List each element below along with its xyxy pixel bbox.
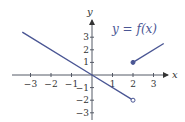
y-axis-label: y [86,6,93,17]
y-tick-label: −1 [76,83,89,93]
x-tick-label: −3 [24,79,38,89]
y-tick-label: 3 [83,32,89,42]
function-curves [22,32,163,102]
x-axis-label: x [172,69,178,80]
x-tick-label: 3 [151,79,157,89]
y-tick-label: −2 [76,95,89,105]
function-graph: x y −3−2−1123 −3−2−1123 y = f(x) [0,0,185,122]
y-tick-label: 2 [83,45,89,55]
y-tick-label: 1 [83,57,89,67]
y-tick-label: −3 [76,108,90,118]
open-endpoint-marker [131,98,135,102]
curve-segment-2 [133,44,164,63]
function-label: y = f(x) [111,22,157,36]
x-tick-label: 2 [130,79,136,89]
closed-endpoint-marker [131,60,135,64]
x-tick-label: −2 [44,79,57,89]
